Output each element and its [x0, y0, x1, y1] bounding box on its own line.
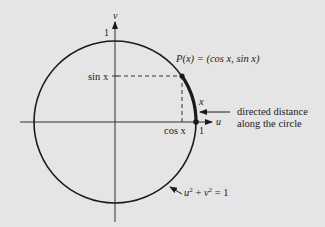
v-axis-label: v — [113, 10, 118, 21]
point-p — [179, 73, 184, 78]
arc-length-label: x — [198, 96, 204, 107]
point-label: P(x) = (cos x, sin x) — [175, 53, 260, 65]
point-one-zero — [193, 119, 199, 125]
unit-circle-diagram: v 1 u 1 P(x) = (cos x, sin x) sin x cos … — [0, 0, 325, 227]
annotation-line-1: directed distance — [237, 106, 308, 117]
u-tick-label: 1 — [199, 125, 204, 136]
cos-label: cos x — [164, 125, 187, 136]
equation-arrow — [170, 187, 182, 194]
circle-equation: u2 + v2 = 1 — [184, 186, 229, 198]
sin-label: sin x — [88, 71, 109, 82]
arc-x — [182, 76, 196, 122]
v-tick-label: 1 — [104, 27, 109, 38]
annotation-line-2: along the circle — [237, 118, 302, 129]
u-axis-label: u — [216, 116, 221, 127]
